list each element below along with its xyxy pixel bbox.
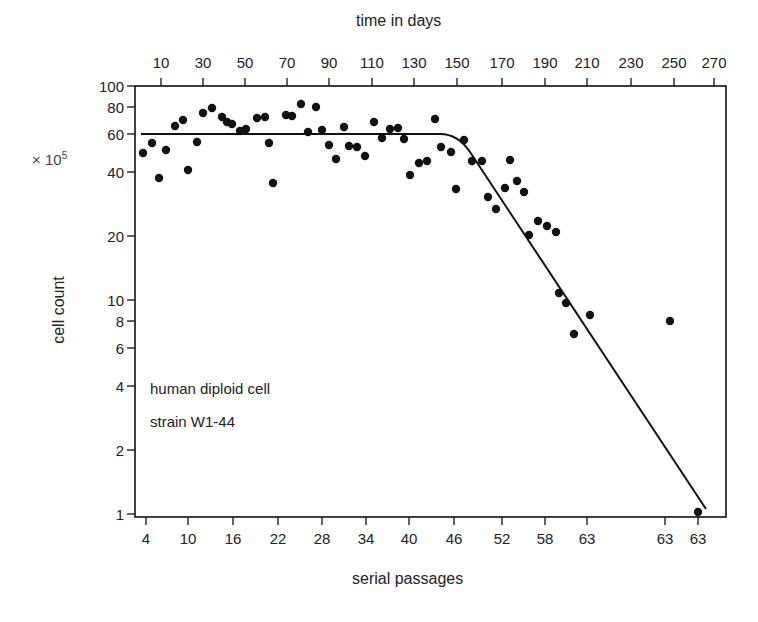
data-point — [552, 228, 560, 236]
data-point — [378, 134, 386, 142]
bottom-tick-label: 34 — [358, 530, 375, 547]
data-point — [586, 311, 594, 319]
data-point — [345, 142, 353, 150]
bottom-tick-label: 46 — [446, 530, 463, 547]
data-point — [361, 152, 369, 160]
data-points — [139, 100, 702, 516]
data-point — [570, 330, 578, 338]
data-point — [437, 143, 445, 151]
data-point — [525, 231, 533, 239]
data-point — [543, 222, 551, 230]
data-point — [139, 149, 147, 157]
data-point — [325, 141, 333, 149]
data-point — [148, 139, 156, 147]
data-point — [492, 205, 500, 213]
data-point — [447, 148, 455, 156]
data-point — [431, 115, 439, 123]
data-point — [340, 123, 348, 131]
data-point — [353, 143, 361, 151]
data-point — [288, 112, 296, 120]
bottom-axis-title: serial passages — [352, 570, 463, 588]
data-point — [452, 185, 460, 193]
data-point — [162, 146, 170, 154]
bottom-tick-label: 63 — [690, 530, 707, 547]
bottom-tick-label: 10 — [180, 530, 197, 547]
top-tick-label: 30 — [195, 54, 212, 71]
data-point — [534, 217, 542, 225]
data-point — [460, 136, 468, 144]
top-tick-label: 270 — [701, 54, 726, 71]
top-axis-title: time in days — [356, 12, 441, 30]
data-point — [694, 508, 702, 516]
top-tick-label: 110 — [360, 54, 384, 71]
data-point — [297, 100, 305, 108]
data-point — [193, 138, 201, 146]
data-point — [269, 179, 277, 187]
data-point — [199, 109, 207, 117]
data-point — [386, 125, 394, 133]
data-point — [484, 193, 492, 201]
data-point — [666, 317, 674, 325]
bottom-tick-label: 52 — [494, 530, 511, 547]
data-point — [228, 120, 236, 128]
y-axis-title-text: cell count — [50, 276, 67, 344]
annotation-line-1: human diploid cell — [150, 380, 270, 397]
bottom-tick-label: 63 — [579, 530, 596, 547]
top-tick-label: 250 — [661, 54, 686, 71]
y-multiplier-label: × 105 — [32, 150, 67, 168]
data-point — [506, 156, 514, 164]
top-tick-label: 90 — [321, 54, 338, 71]
bottom-tick-label: 63 — [657, 530, 674, 547]
left-tick-label: 2 — [84, 442, 124, 459]
data-point — [520, 188, 528, 196]
data-point — [242, 125, 250, 133]
left-tick-label: 100 — [84, 78, 124, 95]
top-tick-label: 10 — [153, 54, 170, 71]
bottom-tick-label: 28 — [314, 530, 331, 547]
data-point — [400, 135, 408, 143]
top-tick-label: 170 — [489, 54, 514, 71]
data-point — [332, 155, 340, 163]
annotation-line-2: strain W1-44 — [150, 413, 235, 430]
bottom-tick-label: 4 — [142, 530, 150, 547]
y-multiplier-base: × 10 — [32, 151, 62, 168]
left-tick-label: 8 — [84, 313, 124, 330]
data-point — [562, 299, 570, 307]
axes-frame — [135, 86, 726, 517]
left-tick-label: 6 — [84, 340, 124, 357]
left-tick-label: 20 — [84, 228, 124, 245]
data-point — [184, 166, 192, 174]
data-point — [155, 174, 163, 182]
left-tick-label: 10 — [84, 292, 124, 309]
data-point — [304, 128, 312, 136]
top-tick-label: 150 — [444, 54, 469, 71]
data-point — [501, 184, 509, 192]
data-point — [318, 126, 326, 134]
data-point — [312, 103, 320, 111]
data-point — [406, 171, 414, 179]
left-tick-label: 80 — [84, 99, 124, 116]
data-point — [478, 157, 486, 165]
top-tick-label: 70 — [279, 54, 296, 71]
data-point — [468, 157, 476, 165]
data-point — [513, 177, 521, 185]
data-point — [171, 122, 179, 130]
left-tick-label: 4 — [84, 378, 124, 395]
bottom-tick-label: 22 — [270, 530, 287, 547]
left-tick-label: 1 — [84, 506, 124, 523]
y-multiplier-exponent: 5 — [62, 150, 68, 161]
data-point — [253, 114, 261, 122]
data-point — [394, 124, 402, 132]
data-point — [555, 289, 563, 297]
axis-ticks — [127, 78, 714, 525]
top-tick-label: 210 — [574, 54, 599, 71]
data-point — [370, 118, 378, 126]
top-tick-label: 230 — [618, 54, 643, 71]
top-tick-label: 130 — [401, 54, 426, 71]
data-point — [415, 159, 423, 167]
data-point — [265, 139, 273, 147]
fitted-curve-line — [141, 134, 706, 509]
top-tick-label: 50 — [237, 54, 254, 71]
bottom-tick-label: 16 — [225, 530, 242, 547]
data-point — [179, 116, 187, 124]
